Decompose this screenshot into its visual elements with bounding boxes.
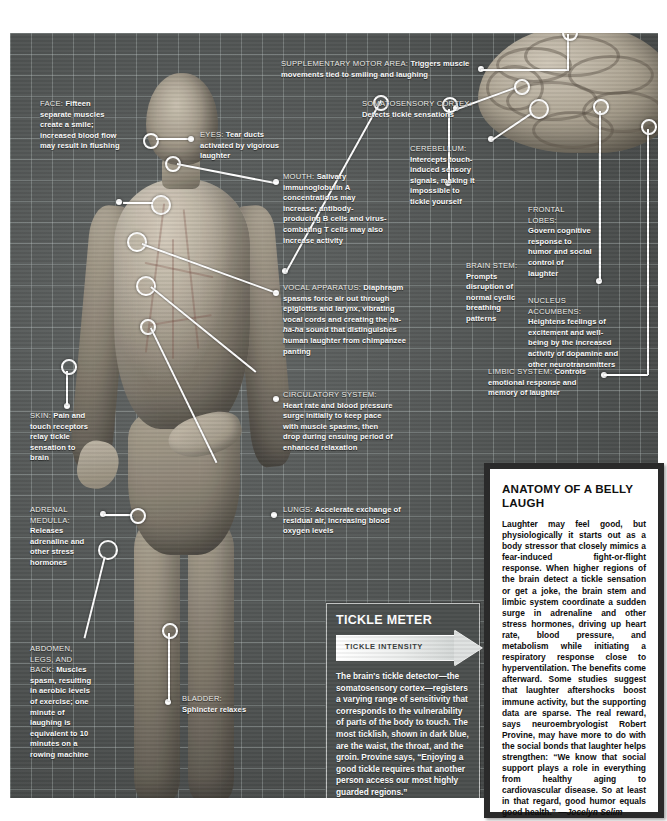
- callout-somatosensory-cortex: SOMATOSENSORY CORTEX: Detects tickle sen…: [362, 99, 482, 120]
- callout-skin-header: SKIN:: [30, 411, 51, 420]
- leader-line-bladder: [168, 633, 170, 701]
- marker-ring-adrenal: [130, 508, 146, 524]
- marker-ring-eyes: [143, 133, 159, 149]
- callout-sma-header: SUPPLEMENTARY MOTOR AREA:: [281, 59, 408, 68]
- callout-eyes-header: EYES:: [200, 130, 224, 139]
- callout-circulatory-header: CIRCULATORY SYSTEM:: [283, 390, 377, 399]
- callout-lungs: LUNGS: Accelerate exchange of residual a…: [283, 505, 401, 537]
- figure-leg-left: [134, 521, 180, 798]
- marker-dot-face: [116, 199, 122, 205]
- callout-somatosensory-header: SOMATOSENSORY CORTEX:: [362, 99, 472, 108]
- callout-mouth: MOUTH: Salivary immunoglobulin A concent…: [283, 172, 391, 246]
- callout-circulatory-system: CIRCULATORY SYSTEM: Heart rate and blood…: [283, 390, 395, 454]
- callout-eyes: EYES: Tear ducts activated by vigorous l…: [200, 130, 296, 162]
- callout-abdomen-legs-back: ABDOMEN, LEGS, AND BACK: Muscles spasm, …: [30, 644, 96, 761]
- callout-frontal-lobes: FRONTAL LOBES: Govern cognitive response…: [528, 205, 594, 279]
- marker-ring-bladder: [162, 623, 178, 639]
- callout-adrenal-medulla: ADRENAL MEDULLA: Releases adrenaline and…: [30, 505, 92, 569]
- leader-line-nucleus: [599, 111, 601, 280]
- belly-laugh-body-text: Laughter may feel good, but physiologica…: [502, 519, 646, 819]
- callout-face-header: FACE:: [40, 99, 63, 108]
- leader-line-face: [123, 202, 153, 204]
- marker-ring-abdomen: [98, 540, 118, 560]
- callout-cerebellum-header: CEREBELLUM:: [410, 144, 466, 153]
- callout-supplementary-motor-area: SUPPLEMENTARY MOTOR AREA: Triggers muscl…: [281, 59, 505, 80]
- marker-ring-skin: [61, 359, 77, 375]
- callout-frontal-body: Govern cognitive response to humor and s…: [528, 226, 592, 277]
- callout-vocal-header: VOCAL APPARATUS:: [283, 283, 361, 292]
- callout-lungs-header: LUNGS:: [283, 505, 313, 514]
- callout-face: FACE: Fifteen separate muscles create a …: [40, 99, 124, 152]
- callout-cerebellum: CEREBELLUM: Intercepts touch-induced sen…: [410, 144, 480, 208]
- callout-brainstem-header: BRAIN STEM:: [466, 261, 517, 270]
- callout-abdomen-body: Muscles spasm, resulting in aerobic leve…: [30, 665, 91, 759]
- tickle-intensity-meter: TICKLE INTENSITY: [336, 635, 468, 661]
- callout-nucleus-accumbens: NUCLEUS ACCUMBENS: Heightens feelings of…: [528, 296, 620, 370]
- callout-vocal-apparatus: VOCAL APPARATUS: Diaphragm spasms force …: [283, 283, 409, 357]
- marker-ring-limbic: [641, 119, 657, 135]
- tickle-intensity-label: TICKLE INTENSITY: [345, 642, 423, 651]
- callout-adrenal-header: ADRENAL MEDULLA:: [30, 505, 70, 525]
- callout-brainstem-body: Prompts disruption of normal cyclic brea…: [466, 272, 515, 323]
- callout-bladder: BLADDER: Sphincter relaxes: [182, 694, 292, 715]
- tickle-meter-title: TICKLE METER: [336, 613, 479, 627]
- marker-dot-vocal: [273, 290, 279, 296]
- belly-laugh-author: —Jocelyn Selim: [558, 807, 622, 817]
- marker-dot-lungs: [271, 512, 277, 518]
- belly-laugh-title: ANATOMY OF A BELLY LAUGH: [502, 482, 646, 510]
- leader-line-limbic: [604, 374, 648, 376]
- marker-dot-eyes: [188, 136, 194, 142]
- callout-mouth-header: MOUTH:: [283, 172, 314, 181]
- callout-skin: SKIN: Pain and touch receptors relay tic…: [30, 411, 90, 464]
- callout-bladder-header: BLADDER:: [182, 694, 222, 703]
- callout-cerebellum-body: Intercepts touch-induced sensory signals…: [410, 155, 475, 206]
- belly-laugh-panel: ANATOMY OF A BELLY LAUGH Laughter may fe…: [484, 463, 664, 818]
- callout-bladder-body: Sphincter relaxes: [182, 705, 246, 714]
- leader-line-eyes: [156, 138, 190, 140]
- callout-mouth-body: Salivary immunoglobulin A concentrations…: [283, 172, 387, 245]
- callout-somatosensory-body: Detects tickle sensations: [362, 110, 454, 119]
- tickle-meter-panel: TICKLE METER TICKLE INTENSITY The brain'…: [326, 603, 480, 798]
- tickle-meter-body-text: The brain's tickle detector—the somatose…: [336, 671, 470, 798]
- belly-laugh-body-main: Laughter may feel good, but physiologica…: [502, 519, 646, 817]
- leader-line-skin: [66, 371, 68, 405]
- leader-line-limbic-vert: [647, 129, 649, 375]
- callout-limbic-system: LIMBIC SYSTEM: Controls emotional respon…: [488, 367, 598, 399]
- marker-dot-circulatory: [273, 396, 279, 402]
- callout-frontal-header: FRONTAL LOBES:: [528, 205, 564, 225]
- marker-ring-vocal: [127, 232, 147, 252]
- callout-nucleus-body: Heightens feelings of excitement and wel…: [528, 317, 618, 368]
- marker-ring-cerebellum: [529, 99, 549, 119]
- marker-ring-nucleus: [593, 99, 609, 115]
- belly-laugh-panel-inner: ANATOMY OF A BELLY LAUGH Laughter may fe…: [490, 469, 658, 812]
- tickle-intensity-arrow-icon: [454, 630, 482, 666]
- callout-brain-stem: BRAIN STEM: Prompts disruption of normal…: [466, 261, 522, 325]
- marker-ring-somatosensory: [514, 79, 530, 95]
- callout-nucleus-header: NUCLEUS ACCUMBENS:: [528, 296, 581, 316]
- callout-circulatory-body: Heart rate and blood pressure surge init…: [283, 401, 393, 452]
- figure-leg-right: [188, 521, 234, 798]
- callout-adrenal-body: Releases adrenaline and other stress hor…: [30, 526, 84, 567]
- marker-ring-face: [151, 195, 171, 215]
- infographic-poster: FACE: Fifteen separate muscles create a …: [0, 0, 667, 821]
- marker-ring-circulatory: [136, 276, 156, 296]
- leader-line-adrenal: [104, 514, 132, 516]
- marker-dot-mouth: [273, 179, 279, 185]
- callout-limbic-header: LIMBIC SYSTEM:: [488, 367, 552, 376]
